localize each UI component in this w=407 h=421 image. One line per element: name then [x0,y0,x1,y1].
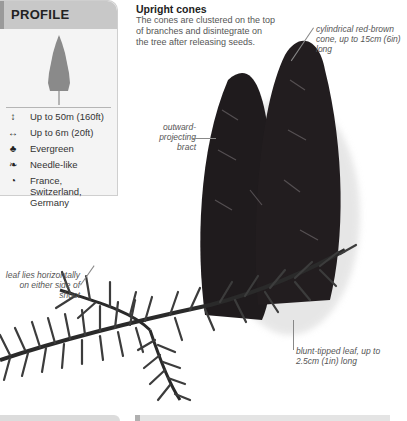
next-panel-right [135,415,390,421]
fact-text: Needle-like [30,159,78,170]
fact-height: ↕ Up to 50m (160ft) [0,111,118,127]
fact-text: Evergreen [30,143,74,154]
profile-facts: ↕ Up to 50m (160ft) ↔ Up to 6m (20ft) ♣ … [0,111,118,199]
fact-range: ◔ France, Switzerland, Germany [0,175,118,199]
fact-leaf: ❧ Needle-like [0,159,118,175]
leader-line-cone [291,27,314,61]
leader-line-leaf-position [80,265,95,285]
fact-foliage: ♣ Evergreen [0,143,118,159]
fact-text: Up to 50m (160ft) [30,111,104,122]
feature-body: The cones are clustered on the top of br… [136,15,276,48]
leader-line-leaf-tip [293,320,294,350]
fact-text: France, Switzerland, Germany [30,175,110,208]
fact-text: Up to 6m (20ft) [30,127,93,138]
next-panel-left [0,415,120,421]
tree-silhouette-icon [0,29,118,107]
globe-icon: ◔ [6,175,20,186]
next-panel-tab [135,415,140,421]
profile-header-tab [0,1,4,29]
annotation-leaf-tip: blunt-tipped leaf, up to 2.5cm (1in) lon… [296,346,396,366]
height-icon: ↕ [6,111,20,122]
profile-card: PROFILE ↕ Up to 50m (160ft) ↔ Up to 6m (… [0,0,118,196]
feature-heading: Upright cones [136,3,207,15]
spread-icon: ↔ [6,127,20,138]
annotation-leaf-position: leaf lies horizontally on either side of… [2,270,80,300]
leader-line-bract [192,138,216,139]
annotation-cone: cylindrical red-brown cone, up to 15cm (… [316,24,406,54]
profile-header: PROFILE [0,1,117,29]
profile-title: PROFILE [11,7,69,22]
annotation-bract: outward-projecting bract [138,122,196,152]
profile-divider [6,107,111,108]
leaf-icon: ❧ [6,159,20,170]
evergreen-icon: ♣ [6,143,20,154]
fact-spread: ↔ Up to 6m (20ft) [0,127,118,143]
